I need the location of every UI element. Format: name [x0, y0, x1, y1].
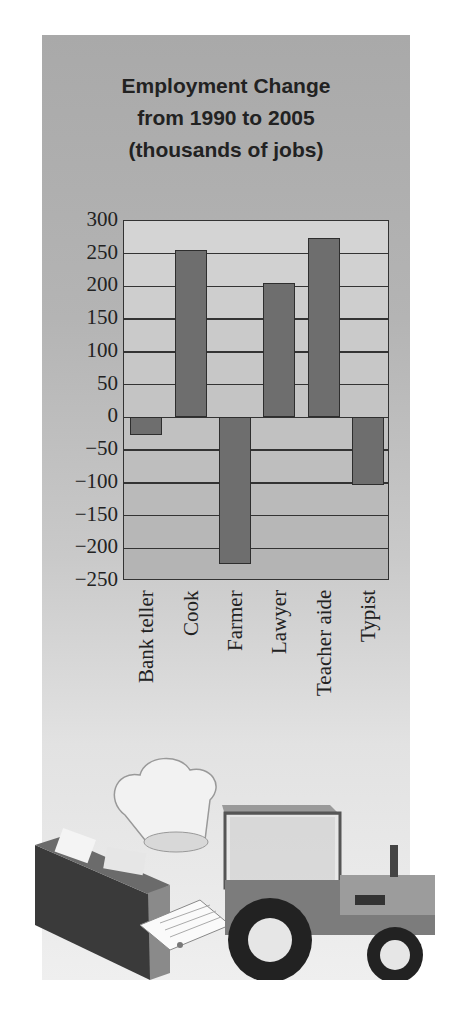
bar-teacher-aide — [308, 238, 340, 417]
gridline — [124, 351, 388, 353]
bar-bank-teller — [130, 417, 162, 435]
x-tick-label: Bank teller — [134, 590, 159, 683]
plot-area — [123, 220, 389, 580]
file-folder-icon — [35, 828, 170, 980]
chart-title: Employment Change from 1990 to 2005 (tho… — [42, 70, 410, 166]
chef-hat-icon — [114, 759, 216, 852]
x-tick-label: Cook — [179, 590, 204, 636]
y-tick-label: 100 — [46, 340, 118, 361]
gridline — [124, 384, 388, 386]
y-tick-label: −150 — [46, 504, 118, 525]
plot-band — [124, 450, 388, 483]
plot-band — [124, 516, 388, 549]
gridline — [124, 318, 388, 320]
gridline — [124, 482, 388, 484]
bar-cook — [175, 250, 207, 418]
y-tick-label: 250 — [46, 242, 118, 263]
title-line-2: from 1990 to 2005 — [42, 102, 410, 134]
gridline — [124, 286, 388, 288]
plot-band — [124, 417, 388, 450]
y-tick-label: 0 — [46, 405, 118, 426]
occupation-illustration — [30, 745, 440, 980]
gridline — [124, 548, 388, 550]
bar-lawyer — [263, 283, 295, 417]
plot-band — [124, 254, 388, 287]
bar-typist — [352, 417, 384, 485]
bar-farmer — [219, 417, 251, 564]
tractor-icon — [222, 805, 435, 980]
plot-band — [124, 319, 388, 352]
x-tick-label: Lawyer — [267, 590, 292, 654]
x-tick-label: Typist — [356, 590, 381, 642]
y-tick-label: −100 — [46, 471, 118, 492]
y-tick-label: 50 — [46, 373, 118, 394]
y-tick-label: 200 — [46, 274, 118, 295]
y-tick-label: −50 — [46, 438, 118, 459]
gridline — [124, 515, 388, 517]
gridline — [124, 449, 388, 451]
plot-band — [124, 548, 388, 580]
gridline — [124, 253, 388, 255]
plot-band — [124, 286, 388, 319]
plot-band — [124, 385, 388, 418]
x-tick-label: Teacher aide — [312, 590, 337, 696]
x-tick-label: Farmer — [223, 590, 248, 651]
plot-band — [124, 221, 388, 254]
plot-band — [124, 483, 388, 516]
gridline — [124, 417, 388, 419]
y-tick-label: −200 — [46, 536, 118, 557]
y-tick-label: −250 — [46, 569, 118, 590]
plot-band — [124, 352, 388, 385]
y-tick-label: 300 — [46, 209, 118, 230]
title-line-1: Employment Change — [42, 70, 410, 102]
title-line-3: (thousands of jobs) — [42, 134, 410, 166]
y-tick-label: 150 — [46, 307, 118, 328]
